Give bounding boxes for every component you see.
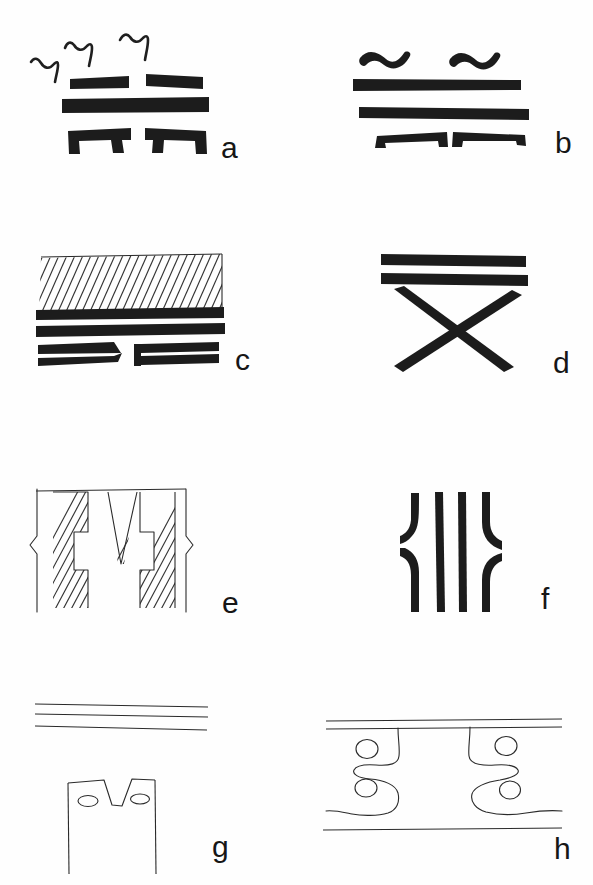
upper-bar (353, 79, 521, 91)
inner-bar-1 (435, 492, 445, 612)
panel-c-drawing (0, 220, 300, 395)
panel-e-label: e (222, 588, 239, 618)
hatch-right-wall (110, 480, 270, 630)
notched-rectangle (68, 779, 156, 874)
panel-e: e (0, 460, 300, 645)
right-bracket-upper (482, 492, 502, 550)
middle-bar (359, 107, 529, 120)
panel-h-label: h (554, 834, 571, 864)
panel-b: b (300, 0, 593, 190)
circle-right-upper (495, 737, 517, 756)
right-bracket-lower (482, 553, 502, 612)
band-base-bar (36, 307, 224, 320)
circle-right-lower (500, 781, 521, 799)
panel-a-label: a (221, 133, 238, 163)
circle-left-upper (356, 740, 378, 759)
middle-bar (62, 97, 209, 113)
baseline (323, 828, 562, 830)
panel-a-drawing (0, 0, 300, 190)
panel-g: g (0, 680, 300, 885)
upper-bar-right-segment (146, 74, 203, 89)
circle-left-lower (355, 779, 377, 797)
hatch-center-wedge (80, 480, 216, 630)
panel-h: h (300, 680, 593, 885)
break-symbol-right (186, 489, 193, 612)
break-symbol-left (30, 489, 37, 612)
panel-b-label: b (555, 128, 572, 158)
panel-g-drawing (0, 680, 300, 885)
top-bar (381, 254, 526, 267)
lower-bracket-left (68, 128, 131, 154)
left-bracket-upper (400, 493, 419, 544)
panel-d: d (300, 220, 593, 395)
panel-f-label: f (541, 584, 549, 614)
panel-c: c (0, 220, 300, 395)
second-bar (36, 323, 225, 337)
lower-split-left (38, 342, 122, 366)
panel-e-drawing (0, 460, 300, 645)
lower-bracket-left (375, 132, 448, 148)
lower-split-right (134, 342, 219, 366)
tilde-mark-left (359, 52, 410, 69)
top-boundary (36, 489, 186, 491)
thin-rail-lines (35, 704, 208, 730)
panel-d-drawing (300, 220, 593, 395)
inner-bar-2 (458, 492, 467, 612)
lower-bracket-right (145, 128, 207, 154)
tilde-mark-right (449, 53, 500, 70)
panel-f-drawing (390, 460, 593, 645)
left-bracket-lower (400, 548, 419, 612)
panel-c-label: c (235, 345, 250, 375)
upper-bar-left-segment (70, 76, 129, 89)
ellipse-right (131, 794, 150, 804)
panel-f: f (390, 460, 593, 645)
panel-h-drawing (300, 680, 593, 885)
second-bar (381, 273, 528, 286)
s-hook-left (326, 728, 399, 815)
panel-g-label: g (212, 832, 229, 862)
panel-a: a (0, 0, 300, 190)
upper-rails (326, 719, 562, 729)
squiggle-marks (31, 35, 148, 82)
panel-d-label: d (553, 348, 570, 378)
lower-bracket-right (452, 132, 526, 147)
ellipse-left (78, 796, 98, 807)
panel-b-drawing (300, 0, 593, 190)
figure-plate: a b (0, 0, 593, 885)
